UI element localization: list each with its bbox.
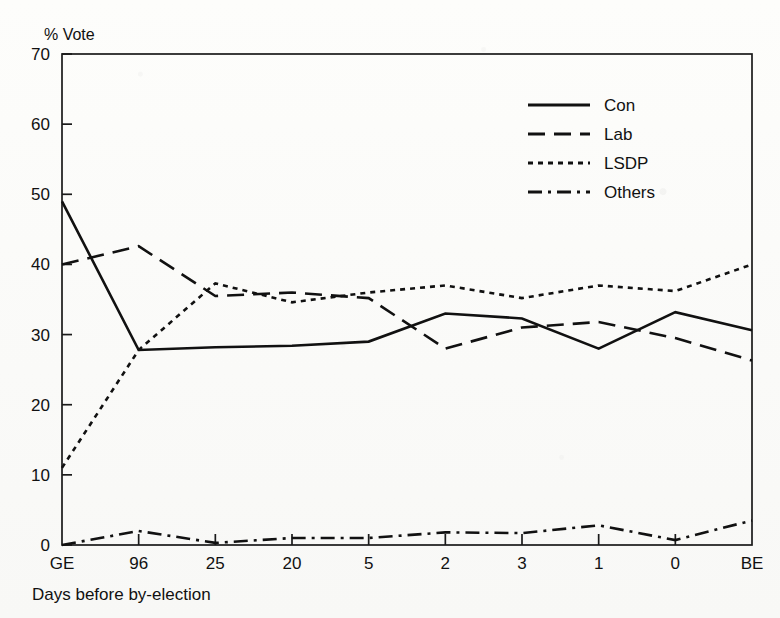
y-axis-ticks: 010203040506070: [31, 45, 72, 555]
series-line-lab: [62, 246, 752, 360]
y-tick-label: 40: [31, 255, 50, 274]
data-series-group: [62, 201, 752, 545]
legend-label-con: Con: [604, 96, 635, 115]
legend-label-others: Others: [604, 183, 655, 202]
x-tick-label: 96: [129, 554, 148, 573]
x-tick-label: 20: [283, 554, 302, 573]
y-tick-label: 10: [31, 466, 50, 485]
y-tick-label: 50: [31, 185, 50, 204]
plot-border: [62, 54, 752, 545]
y-axis-title: % Vote: [44, 26, 95, 43]
x-tick-label: 3: [517, 554, 526, 573]
chart-legend: ConLabLSDPOthers: [528, 96, 655, 202]
x-tick-label: GE: [50, 554, 75, 573]
series-line-lsdp: [62, 264, 752, 467]
x-tick-label: 5: [364, 554, 373, 573]
x-tick-label: 1: [594, 554, 603, 573]
x-axis-ticks: GE96252052310BE: [50, 534, 764, 573]
figure-container: % Vote 010203040506070 GE96252052310BE C…: [0, 0, 780, 618]
legend-label-lsdp: LSDP: [604, 154, 648, 173]
series-line-others: [62, 520, 752, 545]
y-axis-title-label: % Vote: [44, 26, 95, 43]
y-tick-label: 70: [31, 45, 50, 64]
x-tick-label: BE: [741, 554, 764, 573]
y-tick-label: 30: [31, 326, 50, 345]
x-axis-caption-label: Days before by-election: [32, 585, 211, 604]
y-tick-label: 0: [41, 536, 50, 555]
x-tick-label: 2: [441, 554, 450, 573]
x-tick-label: 0: [671, 554, 680, 573]
line-chart: % Vote 010203040506070 GE96252052310BE C…: [0, 0, 780, 618]
y-tick-label: 60: [31, 115, 50, 134]
x-tick-label: 25: [206, 554, 225, 573]
legend-label-lab: Lab: [604, 125, 632, 144]
y-tick-label: 20: [31, 396, 50, 415]
x-axis-caption: Days before by-election: [32, 585, 211, 604]
series-line-con: [62, 201, 752, 350]
plot-frame: [62, 54, 752, 545]
